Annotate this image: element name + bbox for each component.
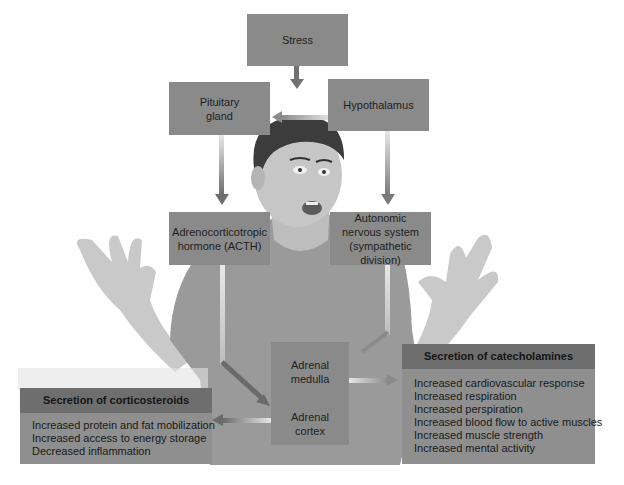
arrowhead-stress-to-hypothalamus xyxy=(290,79,304,89)
arrow-cortex-to-corticosteroids xyxy=(222,418,272,423)
node-hypothalamus-label: Hypothalamus xyxy=(343,98,413,112)
arrow-pituitary-to-acth xyxy=(219,135,224,195)
node-cortex-label-1: Adrenal xyxy=(291,410,329,424)
node-ans-label-3: (sympathetic division) xyxy=(330,239,431,267)
node-acth-label-1: Adrenocorticotropic xyxy=(172,225,267,239)
node-ans-label-2: nervous system xyxy=(342,225,419,239)
arrowhead-hypothalamus-to-pituitary xyxy=(272,111,282,123)
node-medulla-label-2: medulla xyxy=(291,372,330,386)
corticosteroids-effects: Increased protein and fat mobilization I… xyxy=(20,413,212,464)
node-stress: Stress xyxy=(247,14,348,66)
node-pituitary-label-2: gland xyxy=(206,109,233,123)
node-ans-label-1: Autonomic xyxy=(355,211,407,225)
corticosteroids-effect: Increased protein and fat mobilization xyxy=(32,419,200,432)
arrow-acth-to-cortex-diagonal xyxy=(220,360,275,410)
arrowhead-medulla-to-catecholamines xyxy=(387,374,398,386)
catecholamines-effects: Increased cardiovascular response Increa… xyxy=(402,369,595,461)
node-cortex-label-2: cortex xyxy=(295,424,325,438)
arrow-stress-to-hypothalamus xyxy=(294,66,299,80)
node-autonomic-nervous-system: Autonomic nervous system (sympathetic di… xyxy=(330,212,431,265)
arrow-ans-to-medulla-diagonal xyxy=(352,330,392,360)
arrow-medulla-to-catecholamines xyxy=(348,378,388,383)
corticosteroids-title: Secretion of corticosteroids xyxy=(20,388,212,413)
catecholamines-title: Secretion of catecholamines xyxy=(402,344,595,369)
catecholamines-effect: Increased respiration xyxy=(414,390,583,403)
node-hypothalamus: Hypothalamus xyxy=(328,79,429,131)
arrowhead-hypothalamus-to-ans xyxy=(381,194,395,205)
corticosteroids-effect: Decreased inflammation xyxy=(32,445,200,458)
arrow-hypothalamus-to-pituitary xyxy=(282,115,328,120)
catecholamines-effect: Increased mental activity xyxy=(414,442,583,455)
catecholamines-effect: Increased cardiovascular response xyxy=(414,377,583,390)
catecholamines-effect: Increased perspiration xyxy=(414,403,583,416)
node-acth: Adrenocorticotropic hormone (ACTH) xyxy=(169,212,270,265)
corticosteroids-effect: Increased access to energy storage xyxy=(32,432,200,445)
node-stress-label: Stress xyxy=(282,33,313,47)
arrow-ans-to-medulla xyxy=(385,265,390,335)
node-medulla-label-1: Adrenal xyxy=(291,358,329,372)
arrow-hypothalamus-to-ans xyxy=(385,131,390,195)
catecholamines-panel: Secretion of catecholamines Increased ca… xyxy=(402,344,595,464)
node-adrenal-gland: Adrenal medulla Adrenal cortex xyxy=(271,342,349,445)
node-acth-label-2: hormone (ACTH) xyxy=(178,239,262,253)
catecholamines-effect: Increased muscle strength xyxy=(414,429,583,442)
arrow-acth-to-cortex xyxy=(220,265,225,365)
corticosteroids-panel: Secretion of corticosteroids Increased p… xyxy=(20,388,212,464)
arrowhead-pituitary-to-acth xyxy=(215,194,229,205)
node-pituitary-label-1: Pituitary xyxy=(200,95,240,109)
node-pituitary-gland: Pituitary gland xyxy=(169,82,270,135)
catecholamines-effect: Increased blood flow to active muscles xyxy=(414,416,583,429)
